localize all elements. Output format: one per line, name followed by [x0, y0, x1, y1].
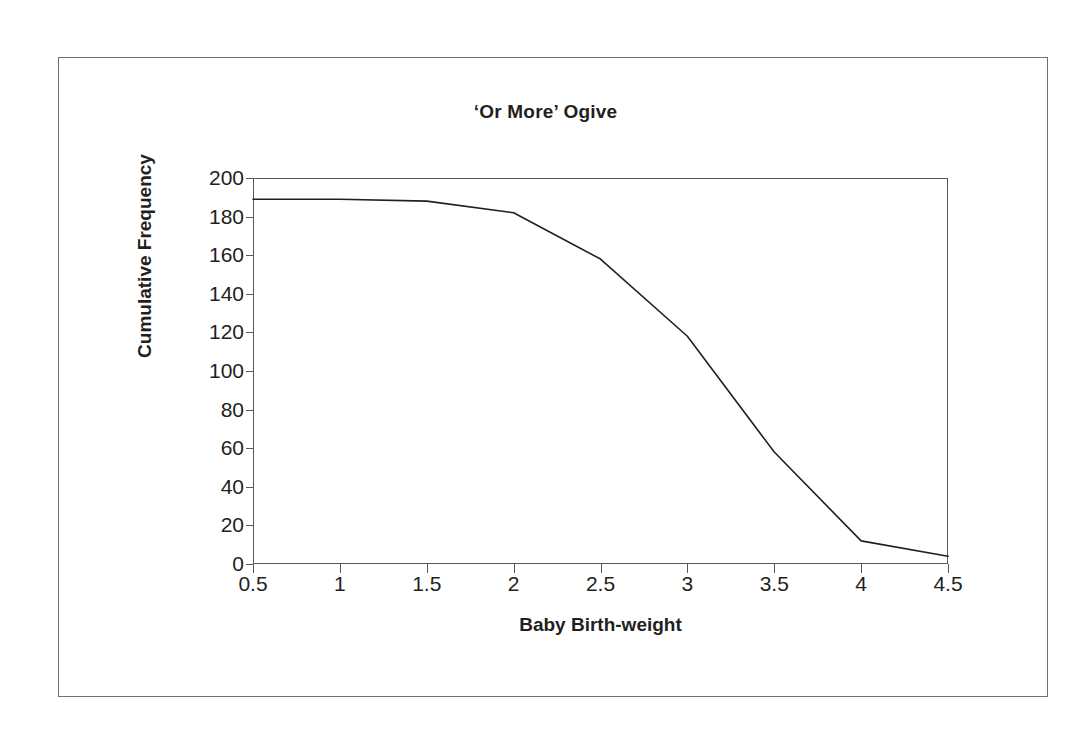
y-tick-mark [246, 371, 253, 372]
x-tick-mark [861, 564, 862, 573]
y-tick-mark [246, 255, 253, 256]
x-tick-mark [601, 564, 602, 573]
x-tick-mark [514, 564, 515, 573]
ogive-polyline [253, 199, 948, 556]
x-tick-label: 2.5 [586, 572, 615, 596]
y-tick-mark [246, 178, 253, 179]
y-tick-label: 160 [184, 243, 244, 267]
y-tick-mark [246, 294, 253, 295]
y-axis-title: Cumulative Frequency [134, 106, 156, 406]
ogive-chart: ‘Or More’ Ogive Cumulative Frequency 020… [0, 0, 1091, 756]
y-tick-label: 200 [184, 166, 244, 190]
x-tick-mark [253, 564, 254, 573]
y-tick-label: 180 [184, 205, 244, 229]
ogive-curve [253, 178, 948, 564]
chart-title: ‘Or More’ Ogive [0, 101, 1091, 123]
x-tick-label: 4 [855, 572, 867, 596]
x-tick-mark [687, 564, 688, 573]
x-tick-mark [948, 564, 949, 573]
y-tick-label: 80 [184, 398, 244, 422]
x-tick-label: 0.5 [238, 572, 267, 596]
y-tick-label: 20 [184, 513, 244, 537]
x-tick-label: 3 [682, 572, 694, 596]
x-tick-mark [427, 564, 428, 573]
y-tick-mark [246, 564, 253, 565]
y-tick-label: 0 [184, 552, 244, 576]
y-tick-label: 60 [184, 436, 244, 460]
x-tick-label: 1 [334, 572, 346, 596]
y-tick-label: 40 [184, 475, 244, 499]
x-tick-label: 1.5 [412, 572, 441, 596]
y-tick-mark [246, 217, 253, 218]
x-tick-label: 4.5 [933, 572, 962, 596]
y-tick-label: 120 [184, 320, 244, 344]
x-tick-mark [340, 564, 341, 573]
y-tick-mark [246, 525, 253, 526]
x-tick-mark [774, 564, 775, 573]
x-tick-label: 3.5 [760, 572, 789, 596]
plot-area: 020406080100120140160180200 0.511.522.53… [253, 178, 948, 564]
x-axis-title: Baby Birth-weight [253, 614, 948, 636]
y-tick-mark [246, 487, 253, 488]
y-tick-mark [246, 448, 253, 449]
y-tick-label: 100 [184, 359, 244, 383]
y-tick-mark [246, 332, 253, 333]
y-tick-label: 140 [184, 282, 244, 306]
y-tick-mark [246, 410, 253, 411]
x-tick-label: 2 [508, 572, 520, 596]
